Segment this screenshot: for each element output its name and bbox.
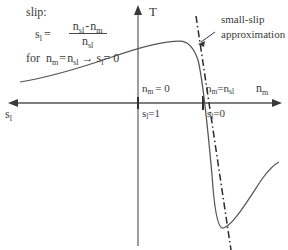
y-axis-label: T [149,5,157,18]
slip-equation: sl = nsl-nm nsl [35,20,107,47]
x-axis-right-arrowhead [272,99,282,107]
sync-slip-annotation: sl=0 [207,108,225,119]
x-axis-left-arrowhead [8,99,18,107]
slip-condition-prefix: for [26,52,40,64]
torque-speed-curve [20,41,279,228]
slip-condition-lhs: nm [40,52,58,64]
small-slip-leader-line [201,32,215,42]
sync-speed-annotation: nm=nsl [206,83,234,94]
small-slip-approximation-line [196,16,231,250]
small-slip-callout-line2: approximation [221,29,285,40]
figure-canvas: slip: sl = nsl-nm nsl for nm = nsl → sl=… [0,0,288,250]
slip-denominator: nsl [69,34,107,47]
slip-label: slip: [26,6,47,18]
left-axis-slip-label: sl [5,108,12,120]
small-slip-callout-line1: small-slip [221,14,264,25]
y-axis-arrowhead [134,5,142,15]
small-slip-leader [198,32,215,47]
slip-condition-equals: = [58,52,67,64]
origin-slip-annotation: sl=1 [142,108,160,119]
slip-condition: for nm = nsl → sl= 0 [26,52,119,64]
slip-equals: = [42,28,53,40]
x-axis-group [8,99,282,107]
slip-numerator: nsl-nm [69,20,107,34]
x-axis-label: nm [256,82,268,94]
slip-condition-rhs: nsl [67,52,78,64]
y-axis-group [134,5,142,246]
slip-variable: sl [35,28,42,40]
slip-fraction: nsl-nm nsl [69,20,107,47]
implies-arrow-icon: → [79,52,97,64]
slip-condition-result: sl= 0 [97,52,120,64]
origin-speed-annotation: nm= 0 [142,83,170,94]
